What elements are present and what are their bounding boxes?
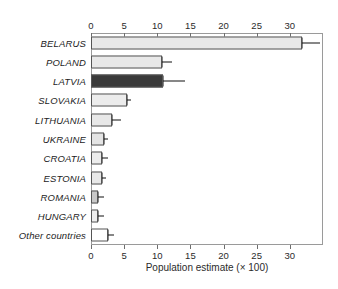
bar-container <box>91 52 323 71</box>
bar <box>91 75 163 88</box>
axis-tick-label: 5 <box>121 250 126 261</box>
bar-row: LITHUANIA <box>0 110 338 129</box>
bar-container <box>91 129 323 148</box>
axis-tick <box>257 245 258 249</box>
bar <box>91 55 162 68</box>
bar-chart: 051015202530 BELARUSPOLANDLATVIASLOVAKIA… <box>0 0 338 289</box>
axis-tick <box>157 245 158 249</box>
category-label: BELARUS <box>0 37 86 48</box>
category-label: CROATIA <box>0 153 86 164</box>
bar-row: UKRAINE <box>0 129 338 148</box>
axis-tick-label: 25 <box>251 20 262 31</box>
axis-tick <box>290 245 291 249</box>
category-label: Other countries <box>0 230 86 241</box>
bar <box>91 152 102 165</box>
category-label: HUNGARY <box>0 211 86 222</box>
category-label: LITHUANIA <box>0 114 86 125</box>
bar-container <box>91 110 323 129</box>
bar <box>91 132 104 145</box>
axis-tick-label: 5 <box>121 20 126 31</box>
category-label: ESTONIA <box>0 172 86 183</box>
category-label: POLAND <box>0 56 86 67</box>
bar <box>91 94 127 107</box>
bar-container <box>91 206 323 225</box>
category-label: ROMANIA <box>0 191 86 202</box>
bar-row: ESTONIA <box>0 168 338 187</box>
axis-tick-label: 20 <box>218 20 229 31</box>
bar-row: LATVIA <box>0 72 338 91</box>
axis-tick-label: 15 <box>185 250 196 261</box>
bar <box>91 229 108 242</box>
axis-tick-label: 0 <box>88 20 93 31</box>
bar-container <box>91 91 323 110</box>
category-label: UKRAINE <box>0 133 86 144</box>
axis-tick <box>224 245 225 249</box>
category-label: LATVIA <box>0 76 86 87</box>
bar <box>91 36 302 49</box>
axis-tick-label: 0 <box>88 250 93 261</box>
bar-container <box>91 33 323 52</box>
bar-row: ROMANIA <box>0 187 338 206</box>
bar-container <box>91 226 323 245</box>
bar <box>91 210 98 223</box>
bar-row: Other countries <box>0 226 338 245</box>
bar-row: CROATIA <box>0 149 338 168</box>
bar-container <box>91 187 323 206</box>
axis-tick <box>91 245 92 249</box>
axis-tick-label: 30 <box>284 250 295 261</box>
bar <box>91 113 112 126</box>
axis-tick-label: 30 <box>284 20 295 31</box>
axis-tick <box>124 245 125 249</box>
axis-tick-label: 15 <box>185 20 196 31</box>
axis-tick <box>190 245 191 249</box>
bar-row: SLOVAKIA <box>0 91 338 110</box>
axis-tick-label: 20 <box>218 250 229 261</box>
category-label: SLOVAKIA <box>0 95 86 106</box>
bar-row: BELARUS <box>0 33 338 52</box>
axis-tick-label: 25 <box>251 250 262 261</box>
bar-container <box>91 149 323 168</box>
x-axis-title: Population estimate (× 100) <box>91 262 323 273</box>
bar <box>91 171 102 184</box>
axis-tick-label: 10 <box>152 250 163 261</box>
bar-container <box>91 72 323 91</box>
bar-container <box>91 168 323 187</box>
axis-tick-label: 10 <box>152 20 163 31</box>
bar-row: POLAND <box>0 52 338 71</box>
bar-row: HUNGARY <box>0 206 338 225</box>
bar <box>91 190 98 203</box>
